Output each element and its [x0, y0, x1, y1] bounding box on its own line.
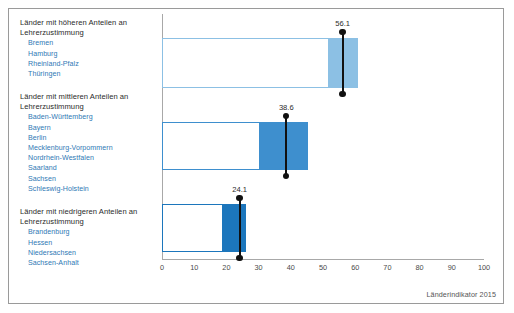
group-heading-low: Länder mit niedrigeren Anteilen an Lehre…	[20, 207, 162, 227]
state-item: Saarland	[28, 163, 162, 173]
x-tick-label: 100	[469, 263, 499, 272]
group-label-block-middle: Länder mit mittleren Anteilen an Lehrerz…	[20, 92, 162, 194]
source-note: Länderindikator 2015	[426, 290, 496, 299]
state-list-low: BrandenburgHessenNiedersachsenSachsen-An…	[20, 227, 162, 268]
state-item: Hamburg	[28, 49, 162, 59]
whisker-cap-high-top	[339, 29, 345, 35]
state-item: Rheinland-Pfalz	[28, 59, 162, 69]
group-label-column: Länder mit höheren Anteilen an Lehrerzus…	[20, 18, 160, 268]
bar-fill-middle	[260, 122, 308, 170]
value-label-high: 56.1	[323, 19, 363, 28]
x-tick-label: 10	[179, 263, 209, 272]
whisker-cap-middle-top	[283, 113, 289, 119]
range-box-high	[162, 38, 329, 88]
state-item: Nordrhein-Westfalen	[28, 153, 162, 163]
state-item: Bremen	[28, 38, 162, 48]
state-item: Thüringen	[28, 69, 162, 79]
state-item: Sachsen-Anhalt	[28, 258, 162, 268]
range-box-middle	[162, 122, 260, 170]
state-list-high: BremenHamburgRheinland-PfalzThüringen	[20, 38, 162, 79]
state-item: Hessen	[28, 238, 162, 248]
x-tick-label: 40	[276, 263, 306, 272]
state-item: Berlin	[28, 133, 162, 143]
state-list-middle: Baden-WürttembergBayernBerlinMecklenburg…	[20, 112, 162, 194]
group-heading-high: Länder mit höheren Anteilen an Lehrerzus…	[20, 18, 162, 38]
mean-whisker-low	[239, 198, 241, 258]
x-axis-line	[162, 259, 484, 260]
state-item: Sachsen	[28, 174, 162, 184]
whisker-cap-high-bottom	[339, 91, 345, 97]
x-tick-label: 50	[308, 263, 338, 272]
state-item: Brandenburg	[28, 227, 162, 237]
x-tick-label: 90	[437, 263, 467, 272]
value-label-middle: 38.6	[266, 103, 306, 112]
mean-whisker-high	[342, 32, 344, 94]
x-tick-label: 60	[340, 263, 370, 272]
plot-area: 56.138.624.1 0102030405060708090100	[162, 14, 484, 260]
group-label-block-low: Länder mit niedrigeren Anteilen an Lehre…	[20, 207, 162, 268]
group-label-block-high: Länder mit höheren Anteilen an Lehrerzus…	[20, 18, 162, 79]
x-tick-label: 80	[405, 263, 435, 272]
figure-canvas: Länder mit höheren Anteilen an Lehrerzus…	[0, 0, 514, 313]
value-label-low: 24.1	[220, 185, 260, 194]
state-item: Niedersachsen	[28, 248, 162, 258]
x-tick-label: 20	[211, 263, 241, 272]
bar-fill-low	[223, 204, 246, 252]
x-tick-label: 70	[372, 263, 402, 272]
mean-whisker-middle	[285, 116, 287, 176]
x-tick-label: 0	[147, 263, 177, 272]
x-axis-tick-labels: 0102030405060708090100	[162, 261, 484, 277]
state-item: Mecklenburg-Vorpommern	[28, 143, 162, 153]
whisker-cap-middle-bottom	[283, 173, 289, 179]
x-tick-label: 30	[244, 263, 274, 272]
bar-fill-high	[329, 38, 358, 88]
state-item: Bayern	[28, 123, 162, 133]
state-item: Schleswig-Holstein	[28, 184, 162, 194]
state-item: Baden-Württemberg	[28, 112, 162, 122]
whisker-cap-low-top	[236, 195, 242, 201]
group-heading-middle: Länder mit mittleren Anteilen an Lehrerz…	[20, 92, 162, 112]
range-box-low	[162, 204, 223, 252]
